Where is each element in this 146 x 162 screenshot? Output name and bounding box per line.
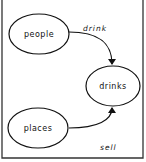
node-label-drinks: drinks — [99, 82, 126, 91]
node-people: people — [9, 14, 69, 54]
arrow-drink — [69, 32, 112, 64]
edge-label-sell: sell — [100, 143, 117, 152]
edge-places-drinks: sell — [69, 108, 117, 152]
edge-people-drinks: drink — [69, 24, 112, 64]
concept-diagram: drink sell people drinks places — [0, 0, 146, 162]
node-places: places — [8, 108, 68, 148]
node-label-people: people — [24, 30, 54, 39]
arrow-sell — [69, 108, 112, 128]
node-label-places: places — [24, 124, 53, 133]
node-drinks: drinks — [86, 66, 140, 106]
edge-label-drink: drink — [83, 24, 107, 33]
